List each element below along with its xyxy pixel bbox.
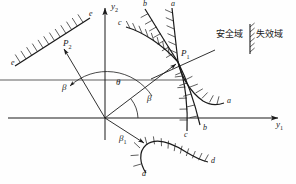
curve-label-c-bottom: c [184,131,188,139]
curve-label-b-top: b [143,0,147,8]
figure-canvas: y1 y2 P1 P2 θ β β β1 a a b b c c d d e e… [0,0,296,184]
axis-label-y2: y2 [111,2,118,13]
angle-arc-theta [70,72,152,96]
diagram-svg [0,0,296,184]
legend-divider [250,23,255,54]
point-label-p2: P2 [63,39,72,50]
angle-arc-beta-right [131,99,138,118]
angle-label-theta: θ [116,78,120,87]
line-e-e [15,14,90,66]
vector-label-beta1: β1 [119,134,127,145]
curve-label-a-right: a [227,97,231,105]
legend-safe-domain-label: 安全域 [216,30,243,39]
point-label-p1: P1 [181,49,190,60]
curve-label-a-top: a [171,0,175,8]
axis-label-y1: y1 [276,120,283,131]
vector-label-beta-right: β [147,94,151,103]
curve-label-b-bottom: b [203,124,207,132]
curve-label-c-top: c [118,19,122,27]
curve-label-d-left: d [142,170,146,178]
vector-label-beta-left: β [62,83,66,92]
curve-b [141,9,200,125]
vector-beta-to-p2 [64,49,105,118]
curve-label-d-right: d [211,157,215,165]
legend-failure-domain-label: 失效域 [256,30,283,39]
line-label-e-upper: e [89,10,93,18]
line-label-e-lower: e [11,59,15,67]
